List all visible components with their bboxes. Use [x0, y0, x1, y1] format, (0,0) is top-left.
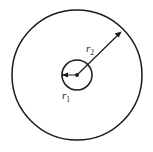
outer-radius-label-subscript: 2: [90, 48, 94, 57]
figure-canvas: r1 r2: [0, 0, 153, 152]
outer-radius-arrow-shaft: [77, 34, 120, 76]
inner-radius-label: r1: [62, 89, 70, 104]
center-dot: [75, 73, 79, 77]
concentric-circles-figure: r1 r2: [0, 0, 153, 152]
outer-radius-label: r2: [86, 42, 94, 57]
inner-radius-label-subscript: 1: [66, 95, 70, 104]
